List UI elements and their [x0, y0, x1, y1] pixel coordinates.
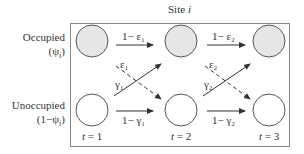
state-occupied-t1	[76, 25, 108, 57]
row-sub-unoccupied: (1−ψi)	[0, 113, 65, 130]
state-unoccupied-t2	[165, 94, 197, 126]
row-label-occupied: Occupied	[0, 31, 65, 43]
label-stay-occupied-1: 1− ε₁	[122, 30, 145, 42]
row-label-unoccupied: Unoccupied	[0, 99, 65, 111]
label-stay-occupied-2: 1− ε₂	[212, 30, 235, 42]
label-stay-unoccupied-2: 1− γ₂	[212, 114, 235, 126]
label-extinction-1: ε₁	[120, 58, 128, 70]
label-extinction-2: ε₂	[209, 58, 217, 70]
site-title: Site i	[168, 3, 191, 15]
label-colonization-2: γ₂	[204, 78, 213, 90]
state-occupied-t2	[165, 25, 197, 57]
state-occupied-t3	[253, 25, 285, 57]
row-sub-occupied: (ψi)	[0, 45, 65, 62]
time-label-3: t = 3	[259, 130, 279, 142]
time-label-1: t = 1	[82, 130, 102, 142]
state-unoccupied-t3	[253, 94, 285, 126]
time-label-2: t = 2	[171, 130, 191, 142]
label-colonization-1: γ₁	[115, 78, 124, 90]
state-unoccupied-t1	[76, 94, 108, 126]
label-stay-unoccupied-1: 1− γ₁	[122, 114, 145, 126]
